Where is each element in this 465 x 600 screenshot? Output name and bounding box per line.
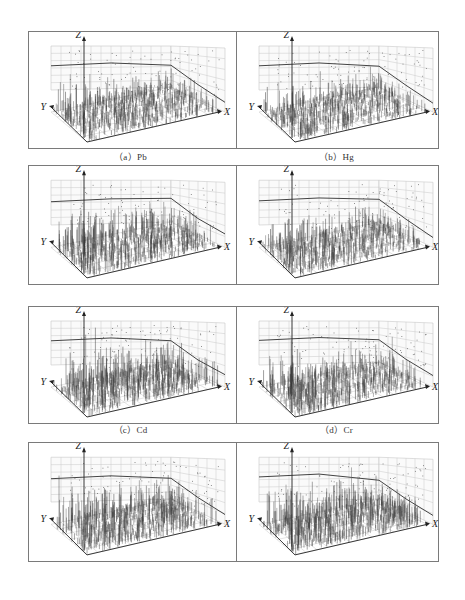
x-axis-label: X <box>223 518 231 529</box>
y-arrow-icon <box>49 105 54 109</box>
z-axis-label: Z <box>75 443 81 451</box>
x-axis-label: X <box>431 518 439 529</box>
panel-caption-d: （d）Cr <box>234 423 439 436</box>
3d-spike-plot: ZXY <box>237 166 444 284</box>
z-arrow-icon <box>82 311 86 316</box>
y-axis-label: Y <box>248 513 255 524</box>
z-arrow-icon <box>290 447 294 452</box>
y-axis-label: Y <box>248 101 255 112</box>
panel-caption-a: （a）Pb <box>28 150 233 163</box>
y-arrow-icon <box>49 240 54 244</box>
3d-spike-plot: ZXY <box>237 32 444 148</box>
z-axis-label: Z <box>75 32 81 40</box>
chart-panel-c: ZXY <box>29 166 236 284</box>
y-arrow-icon <box>49 380 54 384</box>
3d-spike-plot: ZXY <box>237 307 444 423</box>
chart-panel-b: ZXY <box>237 32 444 148</box>
grid <box>259 457 433 555</box>
x-axis-label: X <box>431 381 439 392</box>
z-axis-label: Z <box>283 443 289 451</box>
z-arrow-icon <box>290 36 294 41</box>
z-axis-label: Z <box>283 307 289 315</box>
chart-panel-f: ZXY <box>237 307 444 423</box>
panel-caption-c: （c）Cd <box>28 423 233 436</box>
3d-spike-plot: ZXY <box>29 307 236 423</box>
y-axis-label: Y <box>248 236 255 247</box>
x-axis-label: X <box>431 241 439 252</box>
z-axis-label: Z <box>75 166 81 174</box>
z-axis-label: Z <box>283 32 289 40</box>
x-axis-label: X <box>223 106 231 117</box>
y-axis-label: Y <box>248 376 255 387</box>
3d-spike-plot: ZXY <box>29 443 236 561</box>
x-axis-label: X <box>431 106 439 117</box>
y-arrow-icon <box>257 517 262 521</box>
z-arrow-icon <box>290 170 294 175</box>
3d-spike-plot: ZXY <box>29 32 236 148</box>
z-arrow-icon <box>290 311 294 316</box>
chart-panel-a: ZXY <box>29 32 236 148</box>
panel-caption-b: （b）Hg <box>234 150 439 163</box>
z-arrow-icon <box>82 447 86 452</box>
chart-panel-g: ZXY <box>29 443 236 561</box>
y-axis-label: Y <box>40 513 47 524</box>
y-arrow-icon <box>49 517 54 521</box>
z-arrow-icon <box>82 170 86 175</box>
z-axis-label: Z <box>283 166 289 174</box>
y-axis-label: Y <box>40 101 47 112</box>
z-axis-label: Z <box>75 307 81 315</box>
y-arrow-icon <box>257 240 262 244</box>
chart-panel-e: ZXY <box>29 307 236 423</box>
z-arrow-icon <box>82 36 86 41</box>
y-axis-label: Y <box>40 236 47 247</box>
x-axis-label: X <box>223 241 231 252</box>
chart-panel-h: ZXY <box>237 443 444 561</box>
y-arrow-icon <box>257 105 262 109</box>
y-axis-label: Y <box>40 376 47 387</box>
x-axis-label: X <box>223 381 231 392</box>
3d-spike-plot: ZXY <box>29 166 236 284</box>
chart-panel-d: ZXY <box>237 166 444 284</box>
3d-spike-plot: ZXY <box>237 443 444 561</box>
y-arrow-icon <box>257 380 262 384</box>
